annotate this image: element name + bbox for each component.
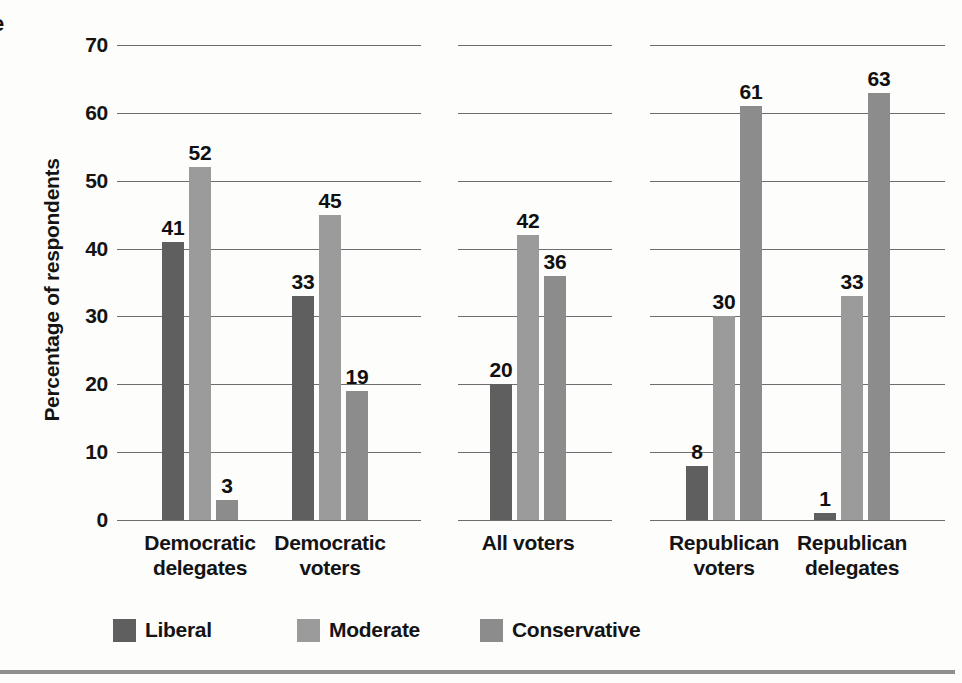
liberal-swatch (113, 619, 136, 642)
gridline-panel3-y0 (650, 520, 945, 521)
legend-label-moderate: Moderate (329, 618, 420, 642)
y-tick-label-0: 0 (40, 508, 108, 532)
bar-conservative-republican-delegates (868, 93, 890, 521)
y-tick-label-40: 40 (40, 237, 108, 261)
value-label-conservative-democratic-delegates: 3 (195, 473, 259, 498)
value-label-moderate-democratic-delegates: 52 (168, 140, 232, 165)
gridline-panel2-y70 (458, 45, 612, 46)
value-label-moderate-all-voters: 42 (496, 208, 560, 233)
chart-figure: e Percentage of respondents 010203040506… (0, 0, 962, 683)
bar-liberal-republican-delegates (814, 513, 836, 520)
bar-liberal-democratic-voters (292, 296, 314, 520)
bar-liberal-democratic-delegates (162, 242, 184, 520)
y-tick-label-60: 60 (40, 101, 108, 125)
legend-item-moderate: Moderate (297, 618, 420, 642)
gridline-panel3-y20 (650, 384, 945, 385)
conservative-swatch (480, 619, 503, 642)
moderate-swatch (297, 619, 320, 642)
y-tick-label-50: 50 (40, 169, 108, 193)
bar-moderate-republican-voters (713, 316, 735, 520)
bar-conservative-democratic-voters (346, 391, 368, 520)
legend-item-conservative: Conservative (480, 618, 640, 642)
value-label-moderate-democratic-voters: 45 (298, 188, 362, 213)
y-tick-label-10: 10 (40, 440, 108, 464)
bar-moderate-all-voters (517, 235, 539, 520)
value-label-conservative-republican-voters: 61 (719, 79, 783, 104)
x-category-label-democratic-voters: Democratic voters (240, 531, 420, 580)
bottom-rule (0, 670, 955, 674)
legend-label-liberal: Liberal (145, 618, 212, 642)
gridline-panel3-y50 (650, 181, 945, 182)
gridline-panel1-y60 (117, 113, 421, 114)
partial-figure-edge-text: e (0, 11, 4, 37)
x-category-label-all-voters: All voters (438, 531, 618, 556)
gridline-panel3-y30 (650, 316, 945, 317)
gridline-panel3-y70 (650, 45, 945, 46)
y-tick-label-70: 70 (40, 33, 108, 57)
y-tick-label-30: 30 (40, 304, 108, 328)
value-label-conservative-all-voters: 36 (523, 249, 587, 274)
bar-liberal-republican-voters (686, 466, 708, 520)
gridline-panel2-y50 (458, 181, 612, 182)
gridline-panel1-y50 (117, 181, 421, 182)
legend-label-conservative: Conservative (512, 618, 640, 642)
bar-conservative-republican-voters (740, 106, 762, 520)
value-label-conservative-democratic-voters: 19 (325, 364, 389, 389)
gridline-panel1-y70 (117, 45, 421, 46)
bar-moderate-democratic-delegates (189, 167, 211, 520)
bar-conservative-all-voters (544, 276, 566, 520)
gridline-panel2-y60 (458, 113, 612, 114)
value-label-conservative-republican-delegates: 63 (847, 66, 911, 91)
gridline-panel2-y0 (458, 520, 612, 521)
gridline-panel3-y40 (650, 249, 945, 250)
gridline-panel3-y60 (650, 113, 945, 114)
x-category-label-republican-delegates: Republican delegates (762, 531, 942, 580)
bar-conservative-democratic-delegates (216, 500, 238, 520)
bar-moderate-republican-delegates (841, 296, 863, 520)
legend-item-liberal: Liberal (113, 618, 212, 642)
bar-liberal-all-voters (490, 384, 512, 520)
gridline-panel1-y0 (117, 520, 421, 521)
y-tick-label-20: 20 (40, 372, 108, 396)
